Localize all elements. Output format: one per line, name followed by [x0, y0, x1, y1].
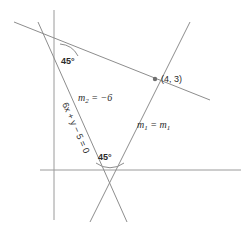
- angle-arc-top-left: [60, 44, 78, 56]
- slope-m1-subscript-2: 1: [167, 124, 171, 132]
- geometry-figure: 45° 45° (4, 3) m2 = −6 m1 = m1 6x + y − …: [0, 0, 241, 229]
- slope-label-m2: m2 = −6: [78, 92, 112, 105]
- angle-arc-bottom: [96, 163, 124, 168]
- slope-m2-value: = −6: [89, 92, 113, 103]
- intersection-point-marker: [153, 77, 157, 81]
- slope-label-m1: m1 = m1: [137, 119, 170, 132]
- slope-m2-symbol: m: [78, 92, 85, 103]
- angle-label-bottom: 45°: [98, 152, 112, 162]
- angle-label-top-left: 45°: [61, 56, 75, 66]
- equation-label: 6x + y − 5 = 0: [60, 101, 91, 155]
- point-coordinate-label: (4, 3): [161, 74, 182, 84]
- steep-line-m2: [38, 22, 127, 222]
- slope-m1-symbol-2: m: [159, 119, 166, 130]
- slope-m1-symbol: m: [137, 119, 144, 130]
- point-coordinate-value: (4, 3): [161, 74, 182, 84]
- slope-m1-equals: =: [148, 119, 160, 130]
